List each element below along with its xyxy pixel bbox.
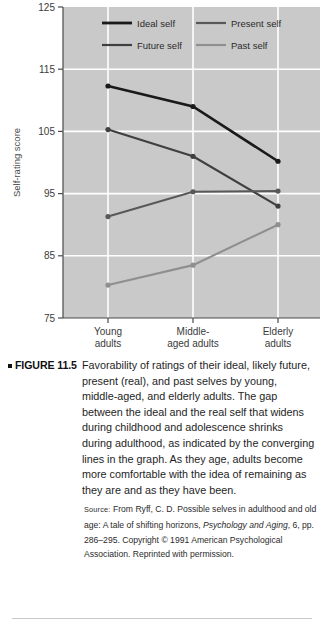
data-point	[105, 282, 110, 287]
x-tick-label: Young	[94, 326, 122, 337]
caption-body: Favorability of ratings of their ideal, …	[82, 358, 315, 498]
legend-label-past-self: Past self	[231, 40, 268, 51]
bottom-divider	[12, 618, 312, 619]
source-note: Source: From Ryff, C. D. Possible selves…	[84, 502, 324, 561]
source-journal-title: Psychology and Aging	[203, 520, 288, 530]
y-tick-label: 85	[44, 250, 56, 261]
y-axis-title: Self-rating score	[11, 128, 22, 197]
y-tick-label: 105	[38, 126, 55, 137]
data-point	[190, 154, 195, 159]
square-bullet-icon	[8, 364, 12, 368]
data-point	[105, 83, 110, 88]
x-tick-label: Elderly	[263, 326, 294, 337]
legend-label-future-self: Future self	[137, 40, 182, 51]
data-point	[275, 222, 280, 227]
x-tick-label: adults	[95, 338, 122, 349]
data-point	[190, 189, 195, 194]
x-tick-label: adults	[265, 338, 292, 349]
caption-area: FIGURE 11.5 Favorability of ratings of t…	[0, 352, 327, 631]
data-point	[105, 127, 110, 132]
data-point	[275, 203, 280, 208]
legend-label-ideal-self: Ideal self	[137, 18, 175, 29]
data-point	[105, 214, 110, 219]
figure-number: FIGURE 11.5	[15, 359, 77, 371]
source-prefix: Source:	[84, 505, 111, 514]
y-tick-label: 115	[39, 64, 55, 75]
data-point	[190, 263, 195, 268]
x-tick-label: aged adults	[167, 338, 219, 349]
data-point	[275, 189, 280, 194]
figure-label: FIGURE 11.5	[8, 358, 77, 371]
y-tick-label: 125	[38, 2, 55, 13]
legend-label-present-self: Present self	[231, 18, 282, 29]
plot-background	[63, 7, 320, 318]
y-tick-label: 95	[44, 188, 56, 199]
data-point	[190, 104, 195, 109]
chart-container: 125115105958575Self-rating scoreYoungadu…	[0, 0, 327, 352]
x-tick-label: Middle-	[177, 326, 210, 337]
data-point	[275, 159, 280, 164]
caption-row: FIGURE 11.5 Favorability of ratings of t…	[8, 358, 315, 498]
line-chart: 125115105958575Self-rating scoreYoungadu…	[0, 0, 327, 352]
y-tick-label: 75	[44, 313, 56, 324]
figure-page: 125115105958575Self-rating scoreYoungadu…	[0, 0, 327, 631]
